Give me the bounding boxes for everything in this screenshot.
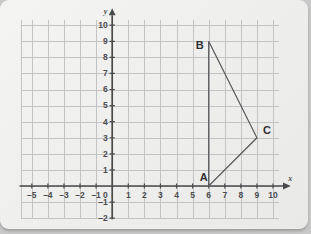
- figure-card: xy –5–4–3–2–112345678910–2–1123456789100…: [0, 0, 308, 229]
- x-tick-label: 2: [142, 190, 147, 200]
- x-tick-label: 7: [222, 190, 227, 200]
- x-tick-label: –5: [27, 190, 37, 200]
- triangle-shape: [209, 41, 257, 186]
- x-tick-label: 5: [190, 190, 195, 200]
- x-tick-label: 8: [238, 190, 243, 200]
- y-tick-label: 7: [103, 68, 108, 78]
- x-tick-label: –2: [75, 190, 85, 200]
- y-tick-label: 4: [103, 117, 108, 127]
- y-tick-label: 5: [103, 100, 108, 110]
- x-tick-label: 9: [255, 190, 260, 200]
- y-tick-label: 8: [103, 52, 108, 62]
- triangle-outline: [209, 41, 257, 186]
- origin-label: 0: [103, 190, 108, 200]
- x-tick-label: 4: [174, 190, 179, 200]
- x-axis-arrow: [283, 183, 291, 190]
- x-tick-label: 6: [206, 190, 211, 200]
- axes: xy: [20, 7, 293, 219]
- vertex-label-c: C: [263, 124, 271, 136]
- grid-lines: [21, 20, 279, 219]
- y-tick-label: 10: [98, 20, 108, 30]
- x-tick-label: –4: [43, 190, 53, 200]
- graph-svg: xy –5–4–3–2–112345678910–2–1123456789100…: [0, 0, 308, 229]
- y-tick-label: –2: [98, 213, 108, 223]
- x-tick-label: –3: [59, 190, 69, 200]
- x-axis-label: x: [287, 174, 292, 183]
- y-axis-arrow: [109, 8, 116, 15]
- y-axis-label: y: [103, 7, 108, 16]
- vertex-label-a: A: [200, 171, 208, 183]
- x-tick-label: 3: [158, 190, 163, 200]
- coordinate-plane: xy –5–4–3–2–112345678910–2–1123456789100…: [0, 0, 308, 229]
- x-tick-label: 1: [126, 190, 131, 200]
- x-tick-label: 10: [268, 190, 278, 200]
- vertex-label-b: B: [196, 39, 204, 51]
- y-tick-label: 1: [103, 165, 108, 175]
- y-tick-label: 3: [103, 133, 108, 143]
- y-tick-label: 2: [103, 149, 108, 159]
- y-tick-label: 9: [103, 36, 108, 46]
- y-tick-label: 6: [103, 84, 108, 94]
